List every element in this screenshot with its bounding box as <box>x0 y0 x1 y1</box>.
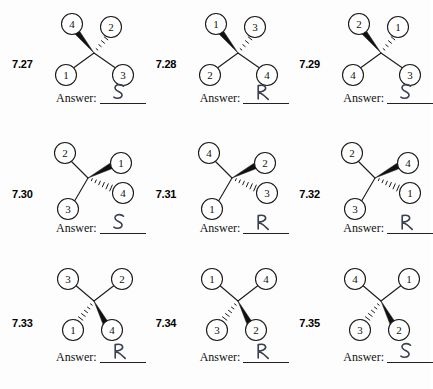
bond-right-wedge <box>232 163 256 178</box>
bond-down-right <box>94 53 117 69</box>
bond-down-left <box>72 53 94 69</box>
answer-label: Answer: <box>56 222 97 234</box>
bond-up-right <box>381 284 403 301</box>
svg-text:4: 4 <box>206 147 212 159</box>
svg-text:3: 3 <box>358 324 364 336</box>
handwritten-answer <box>395 82 421 102</box>
answer-blank[interactable] <box>243 347 289 363</box>
stereocenter-diagram: 4213 <box>48 6 140 88</box>
bond-up-right <box>238 284 260 301</box>
substituent-up-right: 1 <box>388 17 409 38</box>
substituent-up-left: 2 <box>349 14 370 35</box>
substituent-down-left: 3 <box>350 320 371 341</box>
substituent-up-right: 3 <box>244 17 265 38</box>
bond-down-right-hash <box>379 178 400 190</box>
substituent-right: 4 <box>398 152 419 173</box>
answer-blank[interactable] <box>243 88 289 104</box>
answer-label: Answer: <box>343 351 384 363</box>
handwritten-answer <box>395 212 421 232</box>
substituent-up-right: 4 <box>255 269 276 290</box>
substituent-up-right: 2 <box>101 17 122 38</box>
bond-up-left <box>214 160 232 178</box>
answer-label: Answer: <box>56 351 97 363</box>
handwritten-answer <box>108 341 134 361</box>
svg-text:3: 3 <box>353 203 359 215</box>
answer-label: Answer: <box>56 92 97 104</box>
bond-down-left <box>218 178 232 202</box>
substituent-up-left: 4 <box>198 142 219 163</box>
answer-label: Answer: <box>200 222 241 234</box>
answer-blank[interactable] <box>100 218 146 234</box>
problem-cell: 7.322413Answer: <box>287 130 431 260</box>
problem-cell: 7.302143Answer: <box>0 130 144 260</box>
svg-text:1: 1 <box>209 203 215 215</box>
answer-blank[interactable] <box>387 347 433 363</box>
problem-number: 7.30 <box>12 188 33 200</box>
svg-text:1: 1 <box>118 157 124 169</box>
substituent-down-right: 2 <box>245 320 266 341</box>
handwritten-answer <box>108 82 134 102</box>
answer-line: Answer: <box>343 88 433 104</box>
stereocenter-diagram: 2143 <box>335 6 427 88</box>
svg-text:1: 1 <box>70 324 76 336</box>
substituent-down-left: 1 <box>201 198 222 219</box>
stereocenter-diagram: 1324 <box>192 6 284 88</box>
svg-text:3: 3 <box>252 21 258 33</box>
stereocenter-diagram: 4132 <box>335 265 427 347</box>
svg-text:2: 2 <box>350 147 356 159</box>
svg-text:4: 4 <box>406 157 412 169</box>
problem-number: 7.32 <box>299 188 320 200</box>
bond-down-right <box>381 53 404 69</box>
problem-cell: 7.341432Answer: <box>144 259 288 389</box>
substituent-up-left: 1 <box>205 14 226 35</box>
substituent-right: 2 <box>254 152 275 173</box>
problem-number: 7.29 <box>299 58 320 70</box>
substituent-down-right: 4 <box>113 182 134 203</box>
svg-text:3: 3 <box>408 69 414 81</box>
svg-text:2: 2 <box>62 147 68 159</box>
substituent-up-left: 4 <box>62 14 83 35</box>
svg-text:2: 2 <box>397 324 403 336</box>
bond-down-left <box>361 178 375 202</box>
bond-down-right-hash <box>91 178 112 190</box>
bond-up-right <box>94 284 116 301</box>
svg-text:2: 2 <box>253 324 259 336</box>
substituent-down-left: 4 <box>343 65 364 86</box>
svg-text:4: 4 <box>120 187 126 199</box>
substituent-up-left: 2 <box>55 142 76 163</box>
bond-up-left <box>70 160 88 178</box>
problem-cell: 7.292143Answer: <box>287 0 431 130</box>
substituent-down-right: 2 <box>389 320 410 341</box>
bond-down-right <box>238 53 261 69</box>
svg-text:1: 1 <box>213 18 219 30</box>
svg-text:4: 4 <box>109 324 115 336</box>
answer-blank[interactable] <box>387 88 433 104</box>
problem-number: 7.33 <box>12 317 33 329</box>
svg-text:2: 2 <box>207 69 213 81</box>
svg-text:1: 1 <box>408 187 414 199</box>
svg-text:2: 2 <box>108 21 114 33</box>
answer-blank[interactable] <box>100 347 146 363</box>
answer-blank[interactable] <box>387 218 433 234</box>
svg-text:4: 4 <box>69 18 75 30</box>
handwritten-answer <box>251 212 277 232</box>
svg-text:1: 1 <box>396 21 402 33</box>
answer-line: Answer: <box>56 218 146 234</box>
answer-blank[interactable] <box>243 218 289 234</box>
stereocenter-diagram: 2413 <box>335 136 427 218</box>
substituent-right: 1 <box>111 152 132 173</box>
svg-text:3: 3 <box>65 273 71 285</box>
substituent-down-left: 3 <box>58 198 79 219</box>
stereocenter-diagram: 3214 <box>48 265 140 347</box>
svg-text:2: 2 <box>357 18 363 30</box>
svg-text:2: 2 <box>119 273 125 285</box>
svg-text:3: 3 <box>65 203 71 215</box>
bond-up-left <box>74 284 94 301</box>
handwritten-answer <box>251 341 277 361</box>
problem-number: 7.34 <box>156 317 177 329</box>
stereocenter-diagram: 1432 <box>192 265 284 347</box>
svg-text:2: 2 <box>262 157 268 169</box>
answer-blank[interactable] <box>100 88 146 104</box>
handwritten-answer <box>108 212 134 232</box>
